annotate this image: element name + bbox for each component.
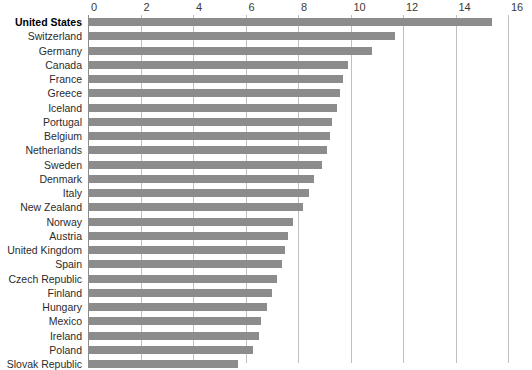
- bar: [88, 275, 277, 283]
- x-axis-tick-label: 0: [91, 1, 97, 14]
- bar-series: [0, 15, 532, 363]
- bar: [88, 360, 238, 368]
- x-axis-tick-label: 4: [196, 1, 202, 14]
- bar: [88, 61, 348, 69]
- bar: [88, 18, 492, 26]
- bar: [88, 260, 282, 268]
- x-axis-tick-label: 10: [354, 1, 366, 14]
- x-axis-tick-label: 16: [511, 1, 523, 14]
- bar: [88, 161, 322, 169]
- bar: [88, 289, 272, 297]
- bar: [88, 132, 330, 140]
- bar: [88, 232, 288, 240]
- bar: [88, 47, 372, 55]
- x-axis-tick-label: 8: [301, 1, 307, 14]
- bar: [88, 246, 285, 254]
- bar: [88, 332, 259, 340]
- bar: [88, 104, 337, 112]
- bar: [88, 203, 303, 211]
- bar: [88, 189, 309, 197]
- bar: [88, 118, 332, 126]
- bar: [88, 89, 340, 97]
- bar: [88, 175, 314, 183]
- x-axis-tick-label: 2: [144, 1, 150, 14]
- bar: [88, 346, 253, 354]
- bar: [88, 32, 395, 40]
- bar: [88, 218, 293, 226]
- bar: [88, 317, 261, 325]
- x-axis-tick-label: 12: [406, 1, 418, 14]
- x-axis-tick-label: 14: [459, 1, 471, 14]
- x-axis-tick-label: 6: [249, 1, 255, 14]
- bar: [88, 303, 267, 311]
- bar: [88, 75, 343, 83]
- bar: [88, 146, 327, 154]
